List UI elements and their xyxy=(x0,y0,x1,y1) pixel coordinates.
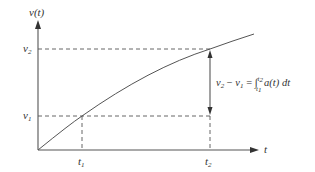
delta-v-arrow-down-icon xyxy=(208,107,213,115)
velocity-integral-diagram: v(t) t v2 v1 t1 t2 v2 − v1 = ∫t2t1 a(t) … xyxy=(0,0,315,172)
delta-v-arrow-up-icon xyxy=(208,50,213,58)
t2-label: t2 xyxy=(205,155,212,169)
v2-label: v2 xyxy=(23,42,32,56)
y-axis-arrow-icon xyxy=(35,20,41,29)
diagram-canvas: v(t) t v2 v1 t1 t2 v2 − v1 = ∫t2t1 a(t) … xyxy=(0,0,315,172)
v1-label: v1 xyxy=(23,109,31,123)
velocity-curve xyxy=(38,34,254,150)
x-axis-label: t xyxy=(264,143,268,155)
integral-formula: v2 − v1 = ∫t2t1 a(t) dt xyxy=(216,75,291,94)
t1-label: t1 xyxy=(78,155,85,169)
x-axis-arrow-icon xyxy=(250,147,259,153)
y-axis-label: v(t) xyxy=(29,6,45,19)
